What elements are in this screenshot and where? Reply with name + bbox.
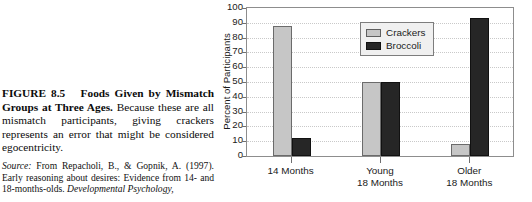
bar-broccoli-young-18-months [381,82,400,156]
y-axis-tick-label: 50 [219,76,243,86]
y-axis-tick-label: 60 [219,61,243,71]
x-axis-label: 14 Months [246,165,335,177]
bar-broccoli-14-months [292,138,311,156]
y-axis-tick-label: 10 [219,135,243,145]
x-axis-tick-mark [291,157,292,163]
plot-area: Crackers Broccoli [246,7,514,157]
source-label: Source: [2,160,31,171]
figure-source: Source: From Repacholi, B., & Gopnik, A.… [2,160,214,195]
bar-broccoli-older-18-months [470,18,489,156]
y-axis-tick-label: 80 [219,32,243,42]
y-axis-tick-label: 70 [219,46,243,56]
x-axis-label: Older18 Months [425,165,514,188]
y-axis-tick-label: 90 [219,17,243,27]
bar-crackers-14-months [273,26,292,156]
y-axis-tick-label: 20 [219,120,243,130]
y-axis-ticks: 0102030405060708090100 [218,0,245,164]
legend-label-crackers: Crackers [386,27,426,38]
legend-swatch-broccoli-icon [366,42,381,50]
y-axis-tick-label: 40 [219,91,243,101]
y-axis-tick-label: 30 [219,106,243,116]
y-axis-tick-label: 0 [219,150,243,160]
legend-label-broccoli: Broccoli [386,40,421,51]
figure-caption: FIGURE 8.5Foods Given by Mismatch Groups… [2,87,214,155]
bar-crackers-young-18-months [362,82,381,156]
x-axis-tick-mark [380,157,381,163]
chart-legend: Crackers Broccoli [360,22,434,56]
legend-entry-broccoli: Broccoli [366,39,426,52]
x-axis: 14 MonthsYoung18 MonthsOlder18 Months [246,157,514,202]
x-axis-label-line1: Older [457,165,481,176]
bar-crackers-older-18-months [451,144,470,156]
x-axis-label-line1: Young [366,165,394,176]
x-axis-tick-mark [469,157,470,163]
x-axis-label-line2: 18 Months [425,177,514,189]
bar-group [451,8,489,156]
bar-chart: Percent of Participants 0102030405060708… [218,0,532,202]
x-axis-label-line2: 18 Months [335,177,424,189]
legend-entry-crackers: Crackers [366,26,426,39]
x-axis-label-line1: 14 Months [268,165,314,176]
figure-page: FIGURE 8.5Foods Given by Mismatch Groups… [0,0,532,202]
x-axis-label: Young18 Months [335,165,424,188]
legend-swatch-crackers-icon [366,29,381,37]
source-journal-name: Developmental Psychology, [67,183,174,194]
y-axis-tick-label: 100 [219,2,243,12]
figure-number: FIGURE 8.5 [2,87,65,99]
bar-group [273,8,311,156]
figure-caption-column: FIGURE 8.5Foods Given by Mismatch Groups… [0,0,218,202]
